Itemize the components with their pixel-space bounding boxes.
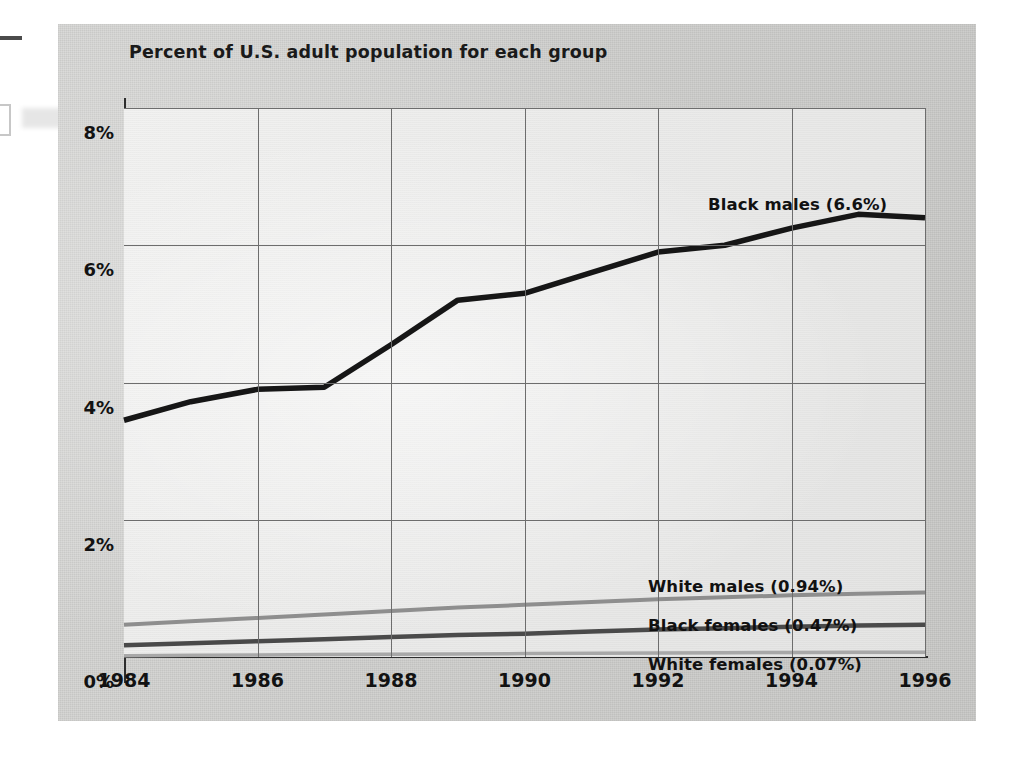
gridline-vertical [658, 108, 659, 657]
y-tick-label: 4% [83, 396, 114, 417]
x-tick-label: 1984 [98, 669, 151, 691]
plot-area [124, 108, 925, 657]
y-axis-tick-labels: 0%2%4%6%8% [58, 48, 114, 708]
gridline-vertical [391, 108, 392, 657]
scan-artifact-bracket [0, 104, 11, 136]
series-label-black-females: Black females (0.47%) [648, 616, 857, 635]
gridline-vertical [258, 108, 259, 657]
x-tick-label: 1996 [899, 669, 952, 691]
chart-title: Percent of U.S. adult population for eac… [129, 42, 607, 62]
y-tick-label: 2% [83, 533, 114, 554]
series-label-white-females: White females (0.07%) [648, 655, 862, 674]
scan-artifact-top [0, 36, 22, 40]
x-tick-label: 1990 [498, 669, 551, 691]
x-tick-label: 1988 [365, 669, 418, 691]
series-label-white-males: White males (0.94%) [648, 577, 843, 596]
gridline-vertical [792, 108, 793, 657]
series-label-black-males: Black males (6.6%) [708, 195, 887, 214]
y-tick-label: 8% [83, 122, 114, 143]
chart-figure-panel: Percent of U.S. adult population for eac… [58, 24, 976, 721]
gridline-vertical [925, 108, 926, 657]
gridline-vertical [525, 108, 526, 657]
y-tick-label: 6% [83, 259, 114, 280]
x-tick-label: 1986 [231, 669, 284, 691]
